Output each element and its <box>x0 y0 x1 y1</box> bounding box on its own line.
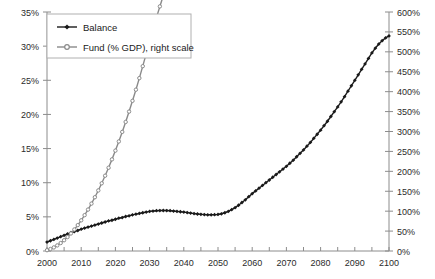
series-marker-balance <box>185 211 189 215</box>
series-marker-fund <box>158 5 161 8</box>
series-marker-fund <box>97 189 100 192</box>
series-marker-balance <box>79 227 83 231</box>
series-marker-balance <box>103 220 107 224</box>
series-marker-balance <box>216 213 220 217</box>
x-axis-tick-label: 2000 <box>37 258 57 268</box>
series-marker-fund <box>93 196 96 199</box>
series-marker-balance <box>161 209 165 213</box>
series-marker-balance <box>148 209 152 213</box>
x-axis-tick-label: 2100 <box>379 258 399 268</box>
x-axis-tick-label: 2070 <box>276 258 296 268</box>
chart-canvas: 0%5%10%15%20%25%30%35%0%50%100%150%200%2… <box>0 0 435 279</box>
series-marker-balance <box>83 226 87 230</box>
series-marker-balance <box>114 217 118 221</box>
series-marker-fund <box>124 120 127 123</box>
series-marker-balance <box>90 224 94 228</box>
series-marker-balance <box>100 221 104 225</box>
y-axis-tick-label: 20% <box>21 110 39 120</box>
series-marker-balance <box>49 239 53 243</box>
series-marker-balance <box>202 213 206 217</box>
series-marker-balance <box>93 223 97 227</box>
series-marker-fund <box>131 99 134 102</box>
series-marker-fund <box>76 223 79 226</box>
series-marker-balance <box>107 219 111 223</box>
y2-axis-tick-label: 450% <box>397 67 420 77</box>
series-marker-balance <box>144 210 148 214</box>
series-marker-balance <box>213 213 217 217</box>
series-marker-fund <box>121 130 124 133</box>
series-marker-fund <box>117 140 120 143</box>
series-marker-balance <box>110 218 114 222</box>
chart-legend: BalanceFund (% GDP), right scale <box>47 14 194 58</box>
x-axis-tick-label: 2050 <box>208 258 228 268</box>
series-marker-fund <box>83 213 86 216</box>
series-marker-fund <box>107 166 110 169</box>
y2-axis-tick-label: 600% <box>397 8 420 18</box>
series-marker-balance <box>199 212 203 216</box>
series-marker-fund <box>134 88 137 91</box>
series-marker-balance <box>182 210 186 214</box>
y-axis-tick-label: 10% <box>21 178 39 188</box>
series-marker-balance <box>131 213 135 217</box>
legend-label-fund: Fund (% GDP), right scale <box>83 42 194 53</box>
series-marker-balance <box>141 211 145 215</box>
series-marker-balance <box>178 210 182 214</box>
series-marker-balance <box>189 211 193 215</box>
series-marker-fund <box>80 219 83 222</box>
series-marker-balance <box>223 211 227 215</box>
y-axis-tick-label: 35% <box>21 8 39 18</box>
series-marker-fund <box>127 110 130 113</box>
series-marker-fund <box>69 232 72 235</box>
y2-axis-tick-label: 400% <box>397 87 420 97</box>
series-marker-balance <box>175 209 179 213</box>
x-axis-tick-label: 2020 <box>105 258 125 268</box>
series-marker-balance <box>168 209 172 213</box>
series-marker-balance <box>86 225 90 229</box>
x-axis-tick-label: 2030 <box>140 258 160 268</box>
series-marker-balance <box>172 209 176 213</box>
y2-axis-tick-label: 0% <box>397 247 410 257</box>
y2-axis-tick-label: 550% <box>397 27 420 37</box>
series-marker-balance <box>192 212 196 216</box>
series-marker-balance <box>124 215 128 219</box>
y2-axis-tick-label: 100% <box>397 207 420 217</box>
y-axis-tick-label: 15% <box>21 144 39 154</box>
series-marker-balance <box>117 216 121 220</box>
series-marker-balance <box>55 236 59 240</box>
series-marker-fund <box>45 249 48 252</box>
series-marker-balance <box>158 209 162 213</box>
series-marker-fund <box>90 202 93 205</box>
series-marker-balance <box>45 240 49 244</box>
y2-axis-tick-label: 350% <box>397 107 420 117</box>
series-marker-balance <box>59 235 63 239</box>
y-axis-tick-label: 0% <box>26 247 39 257</box>
legend-label-balance: Balance <box>83 22 117 33</box>
series-marker-fund <box>52 246 55 249</box>
x-axis-tick-label: 2040 <box>174 258 194 268</box>
y-axis-tick-label: 25% <box>21 76 39 86</box>
series-marker-fund <box>103 174 106 177</box>
series-marker-balance <box>220 212 224 216</box>
legend-marker-fund <box>65 45 70 50</box>
y-axis-tick-label: 5% <box>26 212 39 222</box>
series-marker-balance <box>127 214 131 218</box>
series-marker-fund <box>56 244 59 247</box>
y2-axis-tick-label: 150% <box>397 187 420 197</box>
y2-axis-tick-label: 50% <box>397 227 415 237</box>
y-axis-tick-label: 30% <box>21 42 39 52</box>
series-marker-balance <box>96 222 100 226</box>
series-marker-balance <box>151 209 155 213</box>
series-marker-fund <box>114 149 117 152</box>
y2-axis-tick-label: 250% <box>397 147 420 157</box>
series-marker-fund <box>141 64 144 67</box>
chart-container: 0%5%10%15%20%25%30%35%0%50%100%150%200%2… <box>0 0 435 279</box>
series-marker-balance <box>155 209 159 213</box>
x-axis-tick-label: 2090 <box>345 258 365 268</box>
series-marker-fund <box>62 239 65 242</box>
series-marker-balance <box>120 216 124 220</box>
series-marker-fund <box>110 158 113 161</box>
x-axis-tick-label: 2080 <box>311 258 331 268</box>
series-marker-balance <box>52 237 56 241</box>
y2-axis-tick-label: 500% <box>397 47 420 57</box>
series-marker-fund <box>86 208 89 211</box>
